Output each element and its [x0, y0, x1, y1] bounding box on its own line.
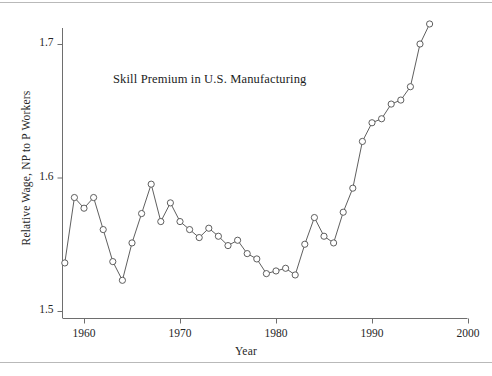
- data-series-markers: [62, 21, 433, 284]
- data-point-marker: [331, 240, 337, 246]
- data-point-marker: [91, 194, 97, 200]
- data-point-marker: [206, 225, 212, 231]
- figure-container: Skill Premium in U.S. Manufacturing Rela…: [0, 0, 492, 376]
- data-point-marker: [369, 120, 375, 126]
- data-series-line: [65, 24, 430, 280]
- data-point-marker: [129, 240, 135, 246]
- data-point-marker: [110, 259, 116, 265]
- data-point-marker: [359, 138, 365, 144]
- data-point-marker: [139, 210, 145, 216]
- data-point-marker: [350, 185, 356, 191]
- data-point-marker: [81, 205, 87, 211]
- data-point-marker: [311, 214, 317, 220]
- data-point-marker: [379, 116, 385, 122]
- data-point-marker: [283, 265, 289, 271]
- data-point-marker: [167, 200, 173, 206]
- data-point-marker: [100, 226, 106, 232]
- data-point-marker: [187, 226, 193, 232]
- data-point-marker: [340, 209, 346, 215]
- data-point-marker: [398, 97, 404, 103]
- y-axis-ticks: [58, 45, 63, 312]
- data-point-marker: [62, 260, 68, 266]
- data-point-marker: [71, 194, 77, 200]
- data-point-marker: [417, 41, 423, 47]
- data-point-marker: [244, 251, 250, 257]
- data-point-marker: [321, 233, 327, 239]
- data-point-marker: [388, 101, 394, 107]
- data-point-marker: [196, 234, 202, 240]
- data-point-marker: [263, 271, 269, 277]
- data-point-marker: [292, 272, 298, 278]
- data-point-marker: [225, 242, 231, 248]
- data-point-marker: [148, 181, 154, 187]
- x-axis-ticks: [85, 319, 469, 324]
- data-point-marker: [177, 218, 183, 224]
- data-point-marker: [273, 268, 279, 274]
- data-point-marker: [427, 21, 433, 27]
- data-point-marker: [235, 237, 241, 243]
- data-point-marker: [158, 218, 164, 224]
- data-point-marker: [302, 241, 308, 247]
- plot-area: [0, 0, 492, 376]
- data-point-marker: [215, 233, 221, 239]
- data-point-marker: [407, 84, 413, 90]
- data-point-marker: [119, 277, 125, 283]
- data-point-marker: [254, 256, 260, 262]
